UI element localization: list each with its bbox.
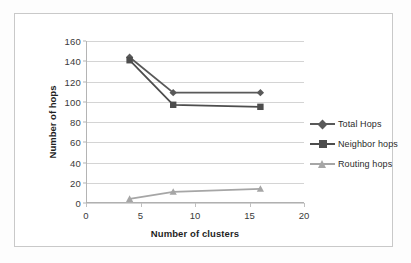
data-point-marker	[257, 104, 263, 110]
y-tick-label: 60	[70, 137, 81, 148]
legend-swatch	[310, 138, 335, 150]
x-tick-mark	[250, 203, 251, 207]
series-line	[130, 60, 261, 107]
legend-item[interactable]: Neighbor hops	[310, 134, 402, 154]
chart-figure: 020406080100120140160 05101520 Number of…	[0, 0, 411, 263]
chart-frame: 020406080100120140160 05101520 Number of…	[14, 13, 393, 247]
legend-swatch	[310, 158, 335, 170]
y-tick-label: 0	[76, 198, 81, 209]
y-tick-label: 140	[65, 56, 81, 67]
x-tick-mark	[86, 203, 87, 207]
x-axis-title: Number of clusters	[86, 228, 304, 239]
legend-marker-diamond	[318, 119, 328, 129]
y-tick-label: 120	[65, 76, 81, 87]
y-tick-label: 100	[65, 96, 81, 107]
y-tick-label: 20	[70, 177, 81, 188]
x-tick-mark	[141, 203, 142, 207]
legend-label: Routing hops	[338, 159, 392, 169]
y-tick-label: 40	[70, 157, 81, 168]
legend-marker-triangle	[318, 160, 326, 168]
data-point-marker	[126, 57, 132, 63]
x-tick-label: 15	[244, 210, 255, 221]
x-tick-label: 20	[299, 210, 310, 221]
x-tick-label: 5	[138, 210, 143, 221]
legend-marker-square	[319, 140, 327, 148]
legend-item[interactable]: Routing hops	[310, 154, 402, 174]
y-tick-label: 80	[70, 117, 81, 128]
x-tick-mark	[195, 203, 196, 207]
legend-swatch	[310, 118, 335, 130]
y-tick-label: 160	[65, 36, 81, 47]
plot-area: 020406080100120140160 05101520	[86, 41, 304, 203]
x-tick-label: 0	[83, 210, 88, 221]
x-tick-label: 10	[190, 210, 201, 221]
x-tick-mark	[304, 203, 305, 207]
legend-label: Total Hops	[338, 119, 382, 129]
series-line	[130, 189, 261, 199]
y-axis-title: Number of hops	[47, 41, 61, 203]
chart-legend: Total HopsNeighbor hopsRouting hops	[310, 114, 402, 174]
data-point-marker	[170, 102, 176, 108]
data-point-marker	[257, 89, 264, 96]
legend-item[interactable]: Total Hops	[310, 114, 402, 134]
series-layer	[86, 41, 304, 203]
series-line	[130, 57, 261, 92]
legend-label: Neighbor hops	[338, 139, 398, 149]
